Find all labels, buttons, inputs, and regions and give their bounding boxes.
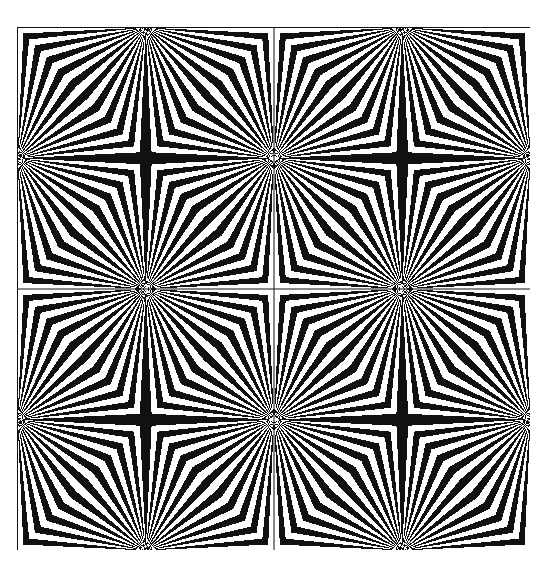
pattern-canvas [17, 27, 530, 550]
op-art-pattern [17, 27, 530, 550]
